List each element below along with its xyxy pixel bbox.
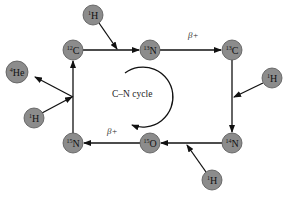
beta-plus-label-bottom: β+	[106, 126, 118, 136]
svg-text:4He: 4He	[10, 67, 25, 78]
edge-he4-emit	[35, 77, 73, 97]
node-h1-right: 1H	[262, 68, 282, 88]
cycle-label: C–N cycle	[112, 89, 152, 99]
edge-h1-right-join	[234, 83, 263, 97]
beta-plus-label-top: β+	[187, 30, 199, 40]
edge-h1-top-join	[99, 23, 117, 49]
node-h1-bottom: 1H	[202, 170, 222, 190]
node-he4: 4He	[6, 61, 28, 83]
node-c13: 13C	[222, 40, 242, 60]
node-n15: 15N	[63, 133, 83, 153]
node-o15: 15O	[140, 133, 160, 153]
edge-h1-left-join	[42, 97, 72, 113]
node-n13: 13N	[140, 40, 160, 60]
node-c12: 12C	[63, 40, 83, 60]
node-h1-left: 1H	[24, 108, 44, 128]
node-h1-top: 1H	[83, 5, 103, 25]
edge-h1-bottom-join	[187, 145, 206, 172]
cn-cycle-diagram: 1H 12C 13N 13C 1H 14N 1H 15O 15N 1H 4He …	[0, 0, 286, 197]
node-n14: 14N	[222, 133, 242, 153]
